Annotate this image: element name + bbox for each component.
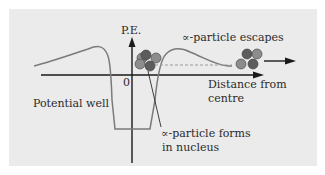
alpha-particle-escaping-icon [236, 49, 262, 69]
potential-curve [34, 47, 232, 129]
y-axis-label: P.E. [121, 25, 141, 37]
alpha-particle-nucleus-icon [135, 50, 161, 71]
escape-arrow-icon [264, 58, 296, 65]
y-axis-arrow-icon [129, 37, 136, 47]
forms-label-line2: in nucleus [162, 142, 219, 154]
y-axis [129, 37, 136, 163]
forms-label-line1: ∝-particle forms [161, 128, 251, 140]
x-axis-label-line2: centre [208, 93, 244, 105]
pointer-line [148, 71, 161, 127]
well-label: Potential well [33, 98, 109, 110]
escape-label: ∝-particle escapes [182, 32, 284, 44]
x-axis-label-line1: Distance from [208, 79, 287, 91]
origin-label: 0 [123, 77, 130, 89]
